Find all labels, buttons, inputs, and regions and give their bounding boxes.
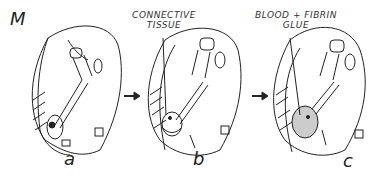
annotation-connective-tissue: CONNECTIVE TISSUE <box>124 10 204 30</box>
panel-label-c: c <box>343 150 353 171</box>
annotation-line-2: TISSUE <box>124 20 204 30</box>
figure-label: M <box>10 8 26 29</box>
annotation-line-1: CONNECTIVE <box>124 10 204 20</box>
annotation-line-1: BLOOD + FIBRIN <box>250 10 342 20</box>
panel-label-a: a <box>64 148 75 169</box>
panel-label-b: b <box>193 148 204 169</box>
annotation-blood-fibrin-glue: BLOOD + FIBRIN GLUE <box>250 10 342 30</box>
panel-a-drawing <box>32 26 121 155</box>
annotation-line-2: GLUE <box>250 20 342 30</box>
panel-b-drawing <box>148 28 241 155</box>
panel-c-drawing <box>274 27 366 155</box>
